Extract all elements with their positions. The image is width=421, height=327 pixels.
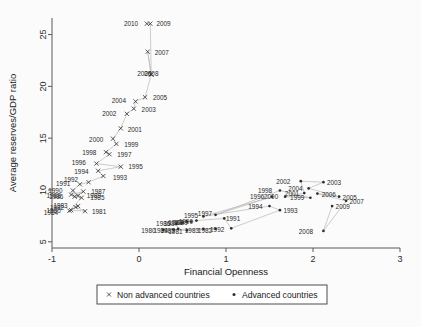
y-axis-title: Average reserves/GDP ratio — [7, 74, 18, 192]
point-label-dot-2008-29: 2008 — [299, 228, 314, 235]
point-dot-1998[interactable] — [279, 189, 282, 192]
point-label-x-1999-19: 1999 — [124, 141, 139, 148]
series-connector-0 — [69, 24, 151, 212]
chart-figure: 510152025-10123Financial OpennessAverage… — [0, 0, 421, 327]
point-dot-1983[interactable] — [202, 227, 205, 230]
point-label-x-2001-21: 2001 — [128, 126, 143, 133]
x-tick-label-3: 3 — [397, 254, 402, 264]
point-dot-2008[interactable] — [322, 230, 325, 233]
point-dot-2009[interactable] — [331, 205, 334, 208]
point-label-x-2005-25: 2005 — [153, 94, 168, 101]
point-dot-1990[interactable] — [195, 219, 198, 222]
point-dot-1997[interactable] — [214, 213, 217, 216]
point-label-dot-1985-5: 1985 — [160, 227, 175, 234]
point-label-x-1992-12: 1992 — [64, 176, 79, 183]
point-dot-1992[interactable] — [230, 227, 233, 230]
point-label-x-1996-16: 1996 — [72, 159, 87, 166]
point-label-dot-1990-10: 1990 — [179, 218, 194, 225]
point-label-dot-2003-23: 2003 — [327, 179, 342, 186]
point-label-x-1994-14: 1994 — [74, 168, 89, 175]
x-tick-label--1: -1 — [48, 254, 56, 264]
point-label-dot-1993-13: 1993 — [283, 207, 298, 214]
point-label-x-1981-1: 1981 — [92, 208, 107, 215]
point-label-dot-1991-11: 1991 — [226, 215, 241, 222]
point-dot-1999[interactable] — [309, 196, 312, 199]
point-dot-2006[interactable] — [316, 192, 319, 195]
point-label-dot-2004-24: 2004 — [288, 185, 303, 192]
x-tick-label-1: 1 — [223, 254, 228, 264]
scatter-plot-svg: 510152025-10123Financial OpennessAverage… — [0, 0, 421, 327]
point-label-x-2009-29: 2009 — [156, 20, 171, 27]
y-tick-label-15: 15 — [38, 133, 48, 143]
legend-label-non-advanced[interactable]: Non advanced countries — [117, 290, 210, 300]
y-tick-label-25: 25 — [38, 30, 48, 40]
point-dot-2007[interactable] — [345, 200, 348, 203]
point-label-x-2007-28: 2007 — [155, 49, 170, 56]
point-dot-1985[interactable] — [177, 227, 180, 230]
point-label-x-2010-30: 2010 — [124, 20, 139, 27]
point-label-dot-2009-28: 2009 — [336, 203, 351, 210]
x-tick-label-2: 2 — [310, 254, 315, 264]
point-label-x-2004-24: 2004 — [112, 97, 127, 104]
point-dot-2005[interactable] — [338, 195, 341, 198]
point-dot-2001[interactable] — [303, 192, 306, 195]
point-dot-2004[interactable] — [307, 187, 310, 190]
point-label-x-1993-13: 1993 — [113, 174, 128, 181]
point-label-dot-1996-16: 1996 — [250, 193, 265, 200]
point-label-dot-1997-17: 1997 — [198, 210, 213, 217]
point-label-x-1983-3: 1983 — [53, 202, 68, 209]
point-label-x-1989-9: 1989 — [87, 192, 102, 199]
point-label-x-2003-23: 2003 — [142, 106, 157, 113]
point-label-dot-2006-26: 2006 — [322, 191, 337, 198]
point-label-dot-1983-3: 1983 — [185, 227, 200, 234]
legend-label-advanced[interactable]: Advanced countries — [242, 290, 317, 300]
point-dot-2002[interactable] — [299, 180, 302, 183]
point-label-x-1990-10: 1990 — [48, 187, 63, 194]
point-label-x-1998-18: 1998 — [82, 149, 97, 156]
point-dot-1993[interactable] — [279, 209, 282, 212]
x-axis-title: Financial Openness — [184, 266, 268, 277]
y-tick-label-20: 20 — [38, 81, 48, 91]
point-label-dot-2002-22: 2002 — [276, 178, 291, 185]
legend-marker-advanced — [233, 293, 236, 296]
point-dot-2003[interactable] — [322, 181, 325, 184]
point-label-dot-2000-20: 2000 — [264, 193, 279, 200]
y-tick-label-5: 5 — [38, 239, 48, 244]
point-label-x-2000-20: 2000 — [89, 136, 104, 143]
point-label-x-1984-4: 1984 — [44, 209, 59, 216]
point-label-x-1995-15: 1995 — [129, 163, 144, 170]
x-tick-label-0: 0 — [136, 254, 141, 264]
point-label-x-2008-27: 2008 — [144, 70, 159, 77]
point-label-dot-2007-27: 2007 — [350, 198, 365, 205]
point-label-dot-1992-12: 1992 — [210, 226, 225, 233]
point-label-x-2002-22: 2002 — [102, 110, 117, 117]
point-label-dot-1995-15: 1995 — [184, 212, 199, 219]
point-label-x-1997-17: 1997 — [117, 151, 132, 158]
point-label-dot-1994-14: 1994 — [248, 203, 263, 210]
point-dot-1994[interactable] — [268, 205, 271, 208]
